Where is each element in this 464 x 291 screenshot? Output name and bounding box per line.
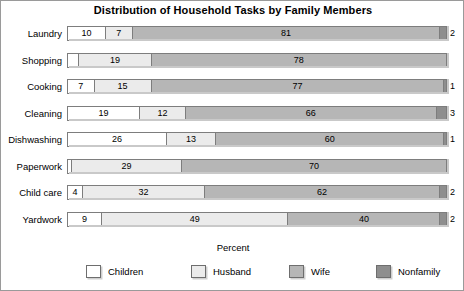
legend-item-children[interactable]: Children — [86, 261, 143, 281]
outside-value-label: 3 — [450, 106, 455, 121]
outside-value-label: 2 — [450, 185, 455, 200]
bar-segment-nonfamily — [443, 79, 447, 94]
bar-segment-husband: 13 — [166, 132, 215, 147]
bar-segment-wife: 60 — [215, 132, 443, 147]
legend-swatch-icon — [191, 265, 206, 278]
legend-label: Children — [108, 266, 143, 277]
outside-value-label: 2 — [450, 26, 455, 41]
plot-area: Laundry107812Shopping1978Cooking715771Cl… — [1, 20, 464, 242]
category-label: Cleaning — [1, 105, 62, 122]
chart-row: Cooking715771 — [1, 78, 464, 95]
bar-segment-husband: 49 — [101, 212, 287, 227]
bar-segment-nonfamily — [439, 26, 447, 41]
bar-segment-children: 7 — [67, 79, 94, 94]
outside-value-label: 2 — [450, 212, 455, 227]
chart-legend: ChildrenHusbandWifeNonfamily — [1, 261, 464, 283]
chart-row: Shopping1978 — [1, 52, 464, 69]
chart-row: Dishwashing2613601 — [1, 131, 464, 148]
chart-row: Cleaning1912663 — [1, 105, 464, 122]
chart-row: Child care432622 — [1, 184, 464, 201]
category-label: Paperwork — [1, 158, 62, 175]
stacked-bar: 43262 — [67, 185, 447, 200]
bar-segment-wife: 62 — [204, 185, 440, 200]
chart-row: Yardwork949402 — [1, 211, 464, 228]
bar-segment-children: 4 — [67, 185, 82, 200]
category-label: Laundry — [1, 25, 62, 42]
chart-container: Distribution of Household Tasks by Famil… — [0, 0, 464, 291]
legend-label: Wife — [311, 266, 330, 277]
legend-label: Nonfamily — [398, 266, 440, 277]
stacked-bar: 94940 — [67, 212, 447, 227]
bar-segment-wife: 66 — [185, 106, 436, 121]
bar-segment-husband: 29 — [71, 159, 181, 174]
legend-item-nonfamily[interactable]: Nonfamily — [376, 261, 440, 281]
bar-segment-wife: 77 — [151, 79, 444, 94]
chart-row: Laundry107812 — [1, 25, 464, 42]
bar-segment-wife: 70 — [181, 159, 447, 174]
legend-item-wife[interactable]: Wife — [289, 261, 330, 281]
x-axis-title: Percent — [1, 242, 464, 253]
bar-segment-nonfamily — [439, 212, 447, 227]
bar-segment-wife: 81 — [132, 26, 440, 41]
outside-value-label: 1 — [450, 132, 455, 147]
bar-segment-children: 26 — [67, 132, 166, 147]
stacked-bar: 191266 — [67, 106, 447, 121]
category-label: Dishwashing — [1, 131, 62, 148]
category-label: Cooking — [1, 78, 62, 95]
bar-segment-wife: 40 — [287, 212, 439, 227]
bar-segment-wife: 78 — [151, 53, 447, 68]
bar-segment-nonfamily — [436, 106, 447, 121]
stacked-bar: 1978 — [67, 53, 447, 68]
bar-segment-husband: 15 — [94, 79, 151, 94]
stacked-bar: 261360 — [67, 132, 447, 147]
bar-segment-children: 9 — [67, 212, 101, 227]
category-label: Yardwork — [1, 211, 62, 228]
bar-segment-nonfamily — [439, 185, 447, 200]
bar-segment-husband: 19 — [78, 53, 150, 68]
bar-segment-husband: 12 — [139, 106, 185, 121]
stacked-bar: 10781 — [67, 26, 447, 41]
category-label: Child care — [1, 184, 62, 201]
stacked-bar: 2970 — [67, 159, 447, 174]
bar-segment-husband: 32 — [82, 185, 204, 200]
legend-swatch-icon — [289, 265, 304, 278]
legend-label: Husband — [213, 266, 251, 277]
chart-row: Paperwork2970 — [1, 158, 464, 175]
legend-swatch-icon — [376, 265, 391, 278]
category-label: Shopping — [1, 52, 62, 69]
stacked-bar: 71577 — [67, 79, 447, 94]
bar-segment-nonfamily — [443, 132, 447, 147]
legend-item-husband[interactable]: Husband — [191, 261, 251, 281]
chart-title: Distribution of Household Tasks by Famil… — [1, 4, 464, 16]
bar-segment-children: 19 — [67, 106, 139, 121]
outside-value-label: 1 — [450, 79, 455, 94]
bar-segment-children — [67, 53, 78, 68]
bar-segment-husband: 7 — [105, 26, 132, 41]
legend-swatch-icon — [86, 265, 101, 278]
bar-segment-children: 10 — [67, 26, 105, 41]
